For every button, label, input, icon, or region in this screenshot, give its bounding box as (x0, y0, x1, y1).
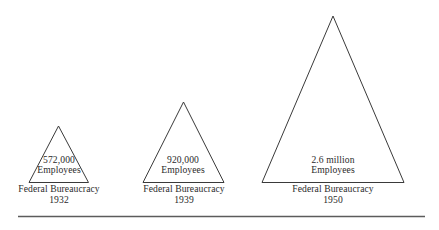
caption-year-1932: 1932 (8, 195, 110, 206)
triangle-caption-1932: Federal Bureaucracy 1932 (8, 184, 110, 205)
employee-unit-1932: Employees (29, 165, 89, 175)
employee-unit-1939: Employees (153, 165, 213, 175)
triangle-caption-1950: Federal Bureaucracy 1950 (282, 184, 384, 205)
federal-bureaucracy-figure: 572,000 Employees Federal Bureaucracy 19… (0, 0, 439, 230)
triangle-caption-1939: Federal Bureaucracy 1939 (133, 184, 235, 205)
triangle-inside-label-1932: 572,000 Employees (29, 155, 89, 176)
triangle-inside-label-1939: 920,000 Employees (153, 155, 213, 176)
caption-year-1939: 1939 (133, 195, 235, 206)
caption-year-1950: 1950 (282, 195, 384, 206)
employee-unit-1950: Employees (303, 165, 363, 175)
triangle-inside-label-1950: 2.6 million Employees (303, 155, 363, 176)
